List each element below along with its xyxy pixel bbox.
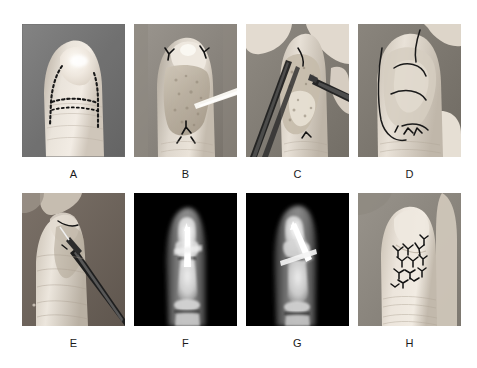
- panel-c-image: [246, 24, 349, 157]
- panel-a-label: A: [22, 168, 125, 181]
- panel-b: B: [134, 24, 237, 181]
- panel-h-image: [358, 193, 461, 326]
- panel-a: A: [22, 24, 125, 181]
- panel-c-label: C: [246, 168, 349, 181]
- panel-d: D: [358, 24, 461, 181]
- panel-f: F: [134, 193, 237, 350]
- panel-a-image: [22, 24, 125, 157]
- panel-d-image: [358, 24, 461, 157]
- panel-f-image: [134, 193, 237, 326]
- panel-e-image: [22, 193, 125, 326]
- panel-row-bottom: E: [22, 193, 458, 350]
- panel-b-label: B: [134, 168, 237, 181]
- panel-g: G: [246, 193, 349, 350]
- panel-h: H: [358, 193, 461, 350]
- figure-sheet: A: [0, 0, 477, 368]
- panel-row-top: A: [22, 24, 458, 181]
- panel-e-label: E: [22, 337, 125, 350]
- panel-f-label: F: [134, 337, 237, 350]
- panel-d-label: D: [358, 168, 461, 181]
- panel-c: C: [246, 24, 349, 181]
- panel-g-image: [246, 193, 349, 326]
- panel-grid: A: [22, 24, 458, 350]
- panel-b-image: [134, 24, 237, 157]
- panel-e: E: [22, 193, 125, 350]
- panel-g-label: G: [246, 337, 349, 350]
- panel-h-label: H: [358, 337, 461, 350]
